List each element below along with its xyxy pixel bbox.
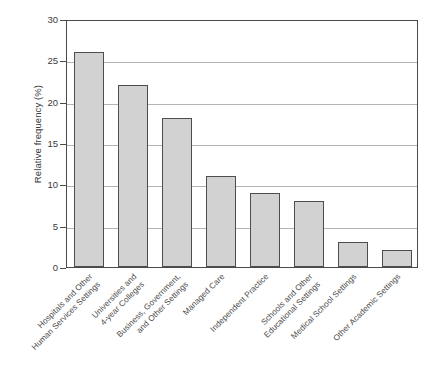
bar[interactable] (338, 242, 369, 267)
gridline (67, 62, 417, 63)
y-axis-tick-label: 25 (10, 56, 58, 66)
bar-chart: Relative frequency (%) 051015202530 Hosp… (0, 0, 433, 365)
bar[interactable] (206, 176, 237, 267)
y-axis-tick-label: 10 (10, 180, 58, 190)
y-axis-tick-label: 30 (10, 15, 58, 25)
y-axis-tick-label: 20 (10, 98, 58, 108)
bar[interactable] (250, 193, 281, 267)
plot-area (66, 20, 418, 268)
x-axis-tick-label: Managed Care (181, 272, 227, 318)
x-axis-tick-labels: Hospitals and OtherHuman Services Settin… (0, 268, 433, 365)
bar[interactable] (162, 118, 193, 267)
y-axis-tick-label: 5 (10, 222, 58, 232)
bar[interactable] (74, 52, 105, 267)
bar[interactable] (118, 85, 149, 267)
bar[interactable] (382, 250, 413, 267)
bar[interactable] (294, 201, 325, 267)
y-axis-tick-label: 15 (10, 139, 58, 149)
